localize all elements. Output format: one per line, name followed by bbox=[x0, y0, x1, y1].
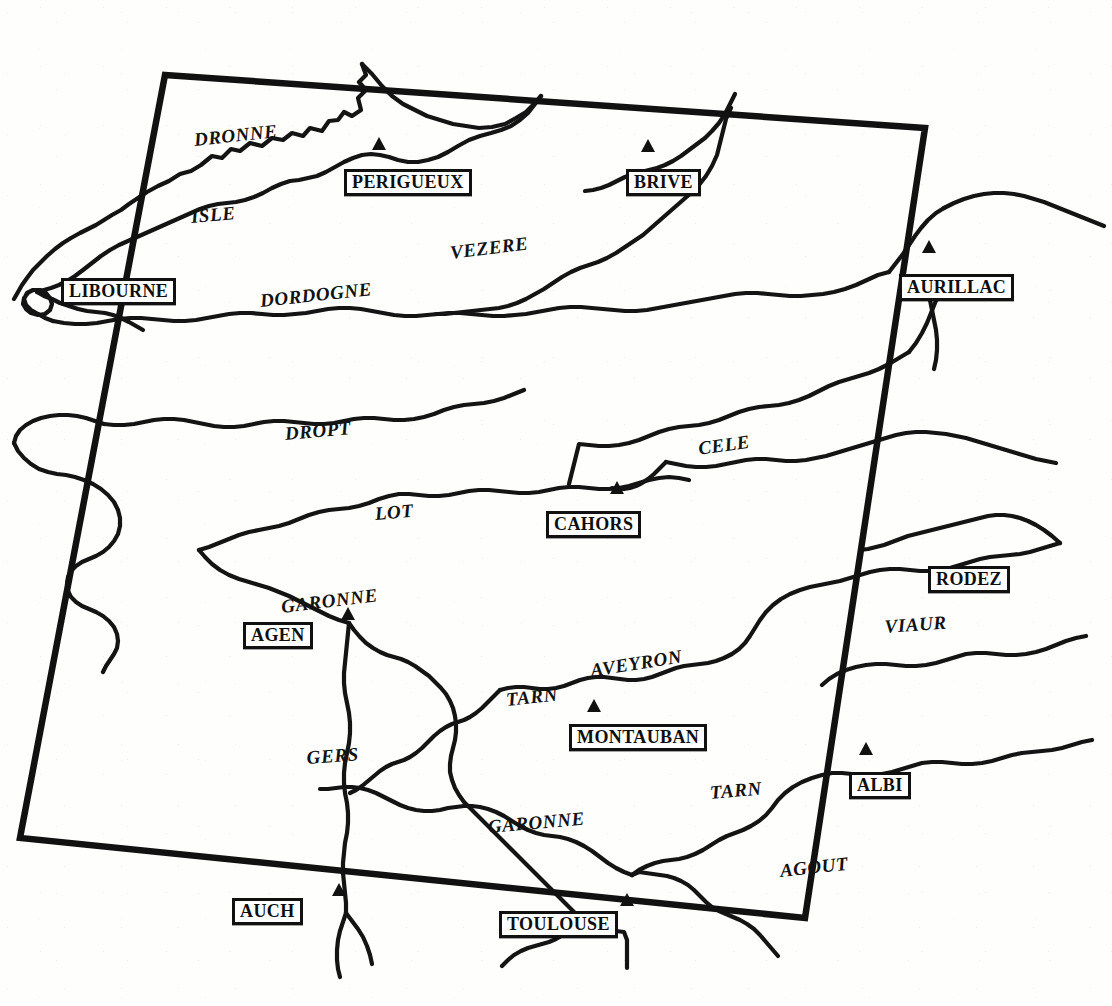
river-path-tarn-lower bbox=[320, 787, 632, 875]
river-path-lot-to-garonne bbox=[199, 550, 349, 623]
river-path-rodez-feeder bbox=[860, 515, 1060, 550]
river-path-tarn-upper bbox=[632, 740, 1092, 875]
city-marker-aurillac-icon bbox=[922, 240, 936, 253]
city-label-auch[interactable]: AUCH bbox=[232, 898, 303, 925]
city-label-rodez[interactable]: RODEZ bbox=[928, 566, 1010, 593]
river-basin-map: DRONNEISLEDORDOGNEVEZEREDROPTLOTCELEVIAU… bbox=[0, 0, 1112, 1006]
river-label-tarn-12: TARN bbox=[709, 778, 762, 801]
city-label-agen[interactable]: AGEN bbox=[243, 622, 313, 649]
river-path-viaur bbox=[822, 636, 1086, 685]
city-label-montauban[interactable]: MONTAUBAN bbox=[569, 724, 707, 751]
river-path-aurillac-east bbox=[944, 193, 1104, 226]
river-path-dronne bbox=[14, 64, 366, 299]
river-path-dordogne bbox=[53, 272, 889, 324]
river-label-viaur-7: VIAUR bbox=[884, 613, 947, 636]
river-path-tarn-montauban bbox=[350, 690, 500, 793]
river-path-cele-join bbox=[612, 462, 666, 489]
city-marker-perigueux-icon bbox=[372, 137, 386, 150]
river-label-lot-5: LOT bbox=[374, 501, 414, 523]
city-label-aurillac[interactable]: AURILLAC bbox=[899, 274, 1014, 301]
city-marker-brive-icon bbox=[641, 139, 655, 152]
river-label-tarn-10: TARN bbox=[505, 685, 559, 709]
map-canvas bbox=[0, 0, 1112, 1006]
river-path-gers-fork-a bbox=[337, 913, 346, 977]
river-path-dordogne-head bbox=[889, 208, 944, 272]
city-label-libourne[interactable]: LIBOURNE bbox=[61, 278, 176, 305]
river-path-lot bbox=[569, 352, 909, 484]
river-path-left-stream bbox=[14, 443, 120, 672]
city-label-brive[interactable]: BRIVE bbox=[626, 169, 701, 196]
river-label-gers-11: GERS bbox=[306, 744, 359, 767]
city-label-albi[interactable]: ALBI bbox=[849, 772, 911, 799]
river-path-gers-fork-b bbox=[346, 913, 372, 964]
city-label-perigueux[interactable]: PERIGUEUX bbox=[344, 169, 472, 196]
city-marker-montauban-icon bbox=[587, 699, 601, 712]
city-marker-albi-icon bbox=[859, 742, 873, 755]
river-path-vezere bbox=[436, 108, 731, 314]
river-path-dropt-mouth bbox=[14, 415, 104, 443]
city-label-toulouse[interactable]: TOULOUSE bbox=[499, 911, 618, 938]
river-label-isle-1: ISLE bbox=[190, 203, 236, 226]
city-label-cahors[interactable]: CAHORS bbox=[546, 511, 641, 538]
